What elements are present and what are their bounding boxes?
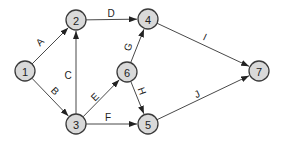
edge-label: G (122, 41, 135, 52)
node-1: 1 (15, 61, 35, 81)
edge-e: E (83, 80, 119, 117)
edge-d: D (86, 8, 137, 20)
edge-label: C (64, 70, 71, 81)
node-6: 6 (117, 62, 137, 82)
edge-label: E (89, 91, 102, 104)
edge-f: F (86, 112, 137, 125)
edge-label: H (136, 86, 149, 97)
nodes: 1234567 (15, 9, 269, 134)
node-label: 2 (73, 15, 79, 27)
edge-c: C (64, 31, 76, 114)
edge-label: I (201, 31, 208, 42)
node-5: 5 (138, 114, 158, 134)
node-2: 2 (66, 10, 86, 30)
node-4: 4 (138, 9, 158, 29)
edge-arrow-line (83, 80, 119, 117)
edge-arrow-line (157, 23, 249, 66)
edge-label: F (105, 112, 111, 123)
node-label: 3 (73, 119, 79, 131)
edge-g: G (122, 29, 144, 62)
edge-b: B (32, 78, 68, 116)
node-label: 7 (256, 66, 262, 78)
node-label: 1 (22, 66, 28, 78)
edge-label: D (107, 8, 114, 19)
edge-arrow-line (157, 76, 249, 120)
node-3: 3 (66, 114, 86, 134)
node-label: 4 (145, 14, 151, 26)
edge-j: J (157, 76, 249, 120)
edge-arrow-line (32, 78, 68, 116)
edge-label: B (49, 85, 62, 98)
node-label: 6 (124, 67, 130, 79)
node-7: 7 (249, 61, 269, 81)
edge-h: H (131, 81, 149, 114)
edge-arrow-line (86, 19, 137, 20)
edge-i: I (157, 23, 249, 66)
edge-label: J (192, 88, 201, 100)
edge-a: A (32, 28, 68, 64)
network-diagram: ABCDEFGHIJ 1234567 (0, 0, 285, 144)
edge-arrow-line (32, 28, 68, 64)
edge-label: A (34, 36, 47, 49)
node-label: 5 (145, 119, 151, 131)
